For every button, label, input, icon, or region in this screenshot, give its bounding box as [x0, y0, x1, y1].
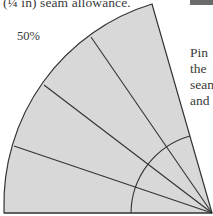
fan-outline: [4, 4, 212, 213]
fan-diagram: [0, 0, 213, 216]
body-text: Pin the seam and: [190, 45, 213, 109]
body-line: the: [190, 61, 213, 77]
body-line: and: [190, 93, 213, 109]
body-line: Pin: [190, 45, 213, 61]
body-line: seam: [190, 77, 213, 93]
